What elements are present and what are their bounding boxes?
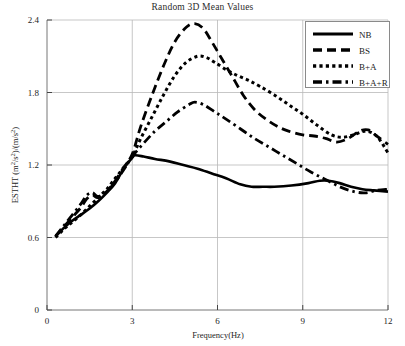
y-tick-label: 2.4 — [28, 15, 40, 25]
x-tick-label: 0 — [45, 316, 50, 326]
y-axis-tick-labels: 00.61.21.82.4 — [28, 15, 40, 315]
y-tick-label: 0 — [35, 305, 40, 315]
y-tick-label: 1.8 — [28, 88, 40, 98]
x-axis-title: Frequency(Hz) — [192, 330, 244, 340]
y-axis-title-mid2: )/(m/s — [10, 133, 20, 153]
series-line-nb — [56, 155, 388, 236]
x-tick-label: 9 — [301, 316, 306, 326]
y-tick-label: 1.2 — [28, 160, 39, 170]
x-tick-label: 12 — [384, 316, 393, 326]
chart-page: Random 3D Mean Values 00.61.21.82.4 0369… — [0, 0, 405, 346]
legend-label-b-a: B+A — [359, 62, 377, 72]
x-tick-label: 6 — [215, 316, 220, 326]
legend-label-b-a-r: B+A+R — [359, 78, 388, 88]
y-tick-label: 0.6 — [28, 233, 40, 243]
series-line-b-a-r — [56, 102, 388, 236]
legend-label-bs: BS — [359, 46, 370, 56]
y-axis-title-suffix: ) — [10, 127, 20, 130]
legend-label-nb: NB — [359, 30, 372, 40]
x-axis-tick-labels: 036912 — [45, 316, 393, 326]
y-axis-title-prefix: ESTHT (m — [10, 165, 20, 203]
chart-legend: NBBSB+AB+A+R — [306, 22, 390, 88]
y-axis-title: ESTHT (m2/s2)/(m/s2) — [9, 127, 20, 204]
random-3d-mean-values-chart: 00.61.21.82.4 036912 Frequency(Hz) ESTHT… — [0, 0, 405, 346]
x-tick-label: 3 — [130, 316, 135, 326]
